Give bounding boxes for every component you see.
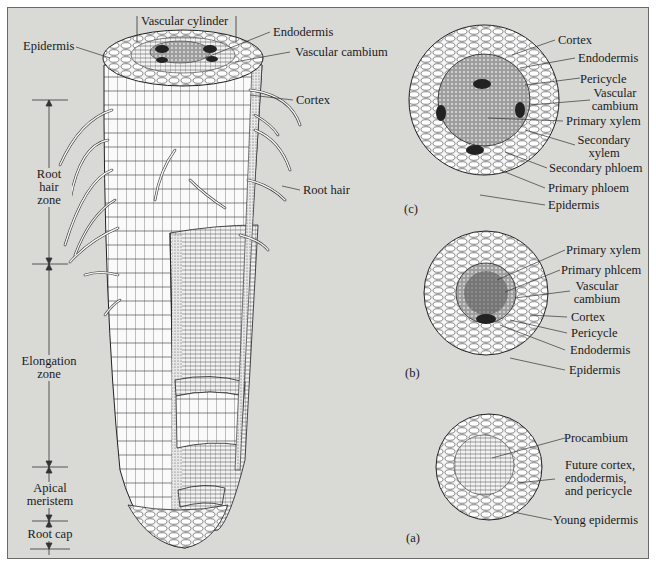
cross-section-c — [409, 25, 559, 175]
zone-apical-meristem: Apical meristem — [22, 482, 78, 508]
zone-root-cap: Root cap — [24, 528, 76, 541]
b-label-cortex: Cortex — [571, 311, 605, 324]
c-label-primary-xylem: Primary xylem — [566, 115, 641, 128]
a-label-young-epidermis: Young epidermis — [553, 514, 638, 527]
c-label-secondary-xylem: Secondary xylem — [572, 134, 636, 160]
panel-a-label: (a) — [406, 532, 420, 545]
label-epidermis: Epidermis — [23, 40, 74, 53]
b-vc-line2: cambium — [568, 293, 626, 306]
b-label-epidermis: Epidermis — [569, 364, 620, 377]
zone-apical-line2: meristem — [22, 495, 78, 508]
zone-root-hair: Root hair zone — [26, 168, 72, 207]
a-future-line3: and pericycle — [565, 485, 635, 498]
c-label-pericycle: Pericycle — [580, 73, 627, 86]
b-label-vascular-cambium: Vascular cambium — [568, 280, 626, 306]
root-illustration — [0, 0, 656, 567]
b-label-primary-phloem: Primary phlcem — [561, 264, 641, 277]
label-root-hair: Root hair — [303, 184, 350, 197]
panel-c-label: (c) — [404, 203, 418, 216]
b-label-pericycle: Pericycle — [571, 327, 618, 340]
c-label-cortex: Cortex — [558, 34, 592, 47]
zone-elongation-line2: zone — [18, 368, 80, 381]
label-endodermis: Endodermis — [273, 26, 333, 39]
label-cortex: Cortex — [296, 94, 330, 107]
c-label-epidermis: Epidermis — [548, 199, 599, 212]
main-root-top-section — [103, 30, 263, 86]
label-vascular-cylinder: Vascular cylinder — [141, 15, 228, 28]
c-label-endodermis: Endodermis — [578, 52, 638, 65]
label-vascular-cambium: Vascular cambium — [295, 46, 388, 59]
a-label-future-tissues: Future cortex, endodermis, and pericycle — [565, 459, 635, 498]
c-label-secondary-phloem: Secondary phloem — [549, 162, 642, 175]
panel-b-label: (b) — [405, 367, 420, 380]
c-vc-line2: cambium — [586, 100, 644, 113]
c-label-vascular-cambium: Vascular cambium — [586, 87, 644, 113]
b-label-endodermis: Endodermis — [570, 344, 630, 357]
c-label-primary-phloem: Primary phloem — [548, 182, 629, 195]
main-root-body — [104, 65, 262, 548]
b-label-primary-xylem: Primary xylem — [566, 244, 641, 257]
a-label-procambium: Procambium — [564, 432, 628, 445]
zone-root-hair-line3: zone — [26, 194, 72, 207]
cross-section-a — [436, 414, 542, 520]
c-sx-line2: xylem — [572, 147, 636, 160]
zone-elongation: Elongation zone — [18, 355, 80, 381]
